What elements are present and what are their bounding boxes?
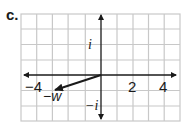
y-tick-neg-i: −i <box>85 98 98 113</box>
y-tick-i: i <box>88 37 92 52</box>
x-tick-4: 4 <box>159 78 167 95</box>
complex-plane-diagram: −4 2 4 i −i −w <box>0 0 185 125</box>
x-tick-neg4: −4 <box>25 78 42 95</box>
vector-neg-w <box>55 75 101 90</box>
vector-label: −w <box>43 88 62 104</box>
x-tick-2: 2 <box>128 78 136 95</box>
